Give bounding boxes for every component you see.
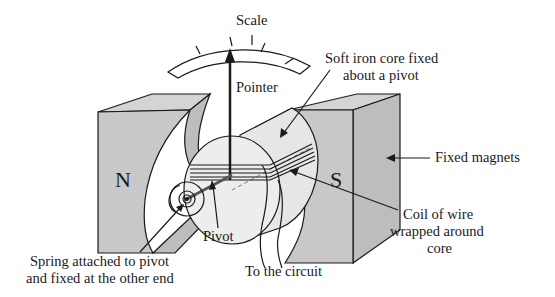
coil-label-3: core <box>427 240 452 256</box>
coil-label-1: Coil of wire <box>403 206 473 222</box>
fixed-magnets-label: Fixed magnets <box>435 149 520 165</box>
coil-label-2: wrapped around <box>390 223 485 239</box>
soft-iron-core <box>184 108 318 244</box>
pivot-label: Pivot <box>203 228 234 244</box>
soft-iron-core-label-2: about a pivot <box>343 67 419 83</box>
spring-label-1: Spring attached to pivot <box>30 253 169 269</box>
soft-iron-core-label-1: Soft iron core fixed <box>325 50 439 66</box>
scale <box>168 35 310 78</box>
scale-label: Scale <box>236 12 267 28</box>
to-circuit-label: To the circuit <box>245 263 322 279</box>
spring-label-2: and fixed at the other end <box>26 270 175 286</box>
north-pole-label: N <box>115 167 131 192</box>
pointer-label: Pointer <box>236 79 278 95</box>
galvanometer-diagram: N S Scale Pointer Soft iron core fixed a… <box>0 0 555 297</box>
